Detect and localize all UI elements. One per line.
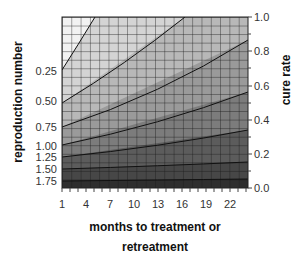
- svg-text:10: 10: [128, 198, 140, 210]
- svg-text:0.0: 0.0: [254, 182, 269, 194]
- x-axis-title-line1: months to treatment or: [62, 217, 248, 237]
- svg-text:13: 13: [152, 198, 164, 210]
- svg-text:0.4: 0.4: [254, 114, 269, 126]
- svg-text:4: 4: [83, 198, 89, 210]
- left-y-axis-title: reproduction number: [11, 41, 25, 163]
- x-axis: [62, 188, 246, 192]
- svg-text:0.50: 0.50: [36, 95, 57, 107]
- svg-text:0.75: 0.75: [36, 121, 57, 133]
- svg-text:7: 7: [107, 198, 113, 210]
- x-axis-title-line2: retreatment: [62, 237, 248, 257]
- svg-text:16: 16: [176, 198, 188, 210]
- svg-text:0.25: 0.25: [36, 65, 57, 77]
- svg-text:1: 1: [59, 198, 65, 210]
- svg-text:1.25: 1.25: [36, 151, 57, 163]
- svg-text:22: 22: [224, 198, 236, 210]
- x-tick-labels: 1 4 7 10 13 16 19 22: [59, 198, 236, 210]
- svg-text:1.50: 1.50: [36, 163, 57, 175]
- svg-text:1.0: 1.0: [254, 11, 269, 23]
- right-y-tick-labels: 0.0 0.2 0.4 0.6 0.8 1.0: [254, 11, 269, 194]
- x-axis-title: months to treatment or retreatment: [62, 217, 248, 257]
- right-y-axis: [248, 17, 252, 188]
- svg-text:19: 19: [200, 198, 212, 210]
- plot-area: [62, 17, 248, 188]
- svg-text:0.6: 0.6: [254, 80, 269, 92]
- svg-text:0.8: 0.8: [254, 45, 269, 57]
- svg-text:1.75: 1.75: [36, 175, 57, 187]
- left-y-tick-labels: 0.25 0.50 0.75 1.00 1.25 1.50 1.75: [36, 65, 57, 187]
- svg-text:0.2: 0.2: [254, 148, 269, 160]
- right-y-axis-title: cure rate: [279, 54, 293, 105]
